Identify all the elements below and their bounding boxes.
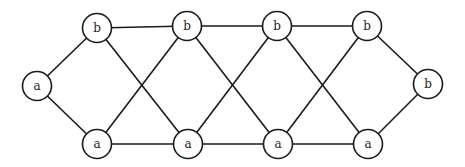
node-label: b bbox=[273, 19, 281, 33]
node-a2: a bbox=[174, 130, 203, 159]
node-aL: a bbox=[23, 72, 52, 101]
node-label: a bbox=[274, 137, 281, 151]
node-b2: b bbox=[173, 12, 202, 41]
node-a4: a bbox=[354, 130, 383, 159]
node-label: a bbox=[93, 137, 100, 151]
node-a3: a bbox=[264, 130, 293, 159]
graph-diagram: abbbbaaaab bbox=[0, 0, 465, 167]
node-label: b bbox=[424, 77, 432, 91]
node-a1: a bbox=[83, 130, 112, 159]
node-b1: b bbox=[83, 14, 112, 43]
node-bR: b bbox=[414, 70, 443, 99]
node-label: a bbox=[184, 137, 191, 151]
node-label: a bbox=[364, 137, 371, 151]
node-b4: b bbox=[353, 12, 382, 41]
edges-layer bbox=[37, 26, 428, 144]
node-label: a bbox=[33, 79, 40, 93]
node-label: b bbox=[363, 19, 371, 33]
node-label: b bbox=[183, 19, 191, 33]
node-b3: b bbox=[263, 12, 292, 41]
node-label: b bbox=[93, 21, 101, 35]
